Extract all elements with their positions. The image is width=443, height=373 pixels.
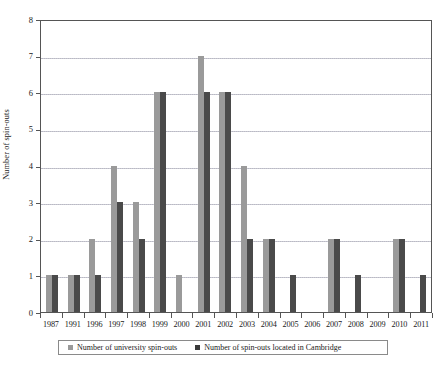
- x-axis-ticks: [40, 313, 432, 319]
- bar-2004-series-2: [269, 239, 275, 312]
- bar-group-2011: [409, 21, 431, 312]
- x-axis-label-1999: 1999: [149, 320, 171, 330]
- bar-group-2006: [301, 21, 323, 312]
- bar-2005-series-2: [290, 275, 296, 312]
- x-axis-label-1998: 1998: [127, 320, 149, 330]
- x-axis-label-2011: 2011: [410, 320, 432, 330]
- bar-group-1991: [63, 21, 85, 312]
- x-axis-label-2002: 2002: [214, 320, 236, 330]
- bar-1991-series-2: [74, 275, 80, 312]
- x-tick-mark-8: [214, 313, 215, 318]
- bar-2008-series-2: [355, 275, 361, 312]
- plot-area: [40, 20, 432, 313]
- x-axis-label-1997: 1997: [105, 320, 127, 330]
- legend-label-series-2: Number of spin-outs located in Cambridge: [204, 343, 341, 352]
- bar-group-2000: [171, 21, 193, 312]
- bar-group-1998: [128, 21, 150, 312]
- bar-2003-series-2: [247, 239, 253, 312]
- bar-group-2002: [214, 21, 236, 312]
- y-tick-label-6: 6: [9, 89, 33, 98]
- x-axis-label-2006: 2006: [301, 320, 323, 330]
- x-tick-mark-14: [345, 313, 346, 318]
- y-tick-label-2: 2: [9, 235, 33, 244]
- y-tick-label-5: 5: [9, 125, 33, 134]
- x-axis-label-2004: 2004: [258, 320, 280, 330]
- x-axis-label-1991: 1991: [62, 320, 84, 330]
- y-tick-label-8: 8: [9, 16, 33, 25]
- x-tick-mark-2: [84, 313, 85, 318]
- bar-group-1997: [106, 21, 128, 312]
- bar-2002-series-2: [225, 92, 231, 312]
- x-tick-mark-17: [410, 313, 411, 318]
- y-tick-label-0: 0: [9, 309, 33, 318]
- y-tick-label-4: 4: [9, 162, 33, 171]
- bar-series-container: [41, 21, 431, 312]
- bar-group-2009: [366, 21, 388, 312]
- bar-group-2003: [236, 21, 258, 312]
- bar-group-1999: [149, 21, 171, 312]
- y-tick-label-7: 7: [9, 52, 33, 61]
- x-tick-mark-9: [236, 313, 237, 318]
- x-axis-label-1987: 1987: [40, 320, 62, 330]
- x-axis-label-2001: 2001: [192, 320, 214, 330]
- x-tick-mark-3: [105, 313, 106, 318]
- bar-2001-series-2: [204, 92, 210, 312]
- chart-legend: Number of university spin-outs Number of…: [58, 340, 388, 355]
- bar-1987-series-2: [52, 275, 58, 312]
- x-tick-mark-12: [301, 313, 302, 318]
- x-axis-label-2009: 2009: [367, 320, 389, 330]
- x-tick-mark-6: [171, 313, 172, 318]
- legend-item-university-spinouts: Number of university spin-outs: [68, 343, 177, 352]
- x-tick-mark-10: [258, 313, 259, 318]
- bar-2000-series-1: [176, 275, 182, 312]
- bar-1997-series-2: [117, 202, 123, 312]
- x-tick-mark-11: [280, 313, 281, 318]
- x-axis-label-2000: 2000: [171, 320, 193, 330]
- bar-1996-series-2: [95, 275, 101, 312]
- x-tick-mark-7: [192, 313, 193, 318]
- x-tick-mark-1: [62, 313, 63, 318]
- bar-group-2005: [279, 21, 301, 312]
- bar-2007-series-2: [334, 239, 340, 312]
- x-tick-mark-13: [323, 313, 324, 318]
- x-axis-label-2005: 2005: [280, 320, 302, 330]
- y-tick-label-3: 3: [9, 199, 33, 208]
- bar-group-2008: [344, 21, 366, 312]
- bar-2011-series-2: [420, 275, 426, 312]
- x-axis-label-1996: 1996: [84, 320, 106, 330]
- series-2-swatch: [195, 345, 200, 350]
- figure-container: 012345678 Number of spin-outs 1987199119…: [0, 0, 443, 373]
- series-1-swatch: [68, 345, 73, 350]
- x-tick-mark-18: [432, 313, 433, 318]
- x-tick-mark-16: [388, 313, 389, 318]
- bar-group-2004: [258, 21, 280, 312]
- x-tick-mark-4: [127, 313, 128, 318]
- legend-item-cambridge-spinouts: Number of spin-outs located in Cambridge: [195, 343, 341, 352]
- x-tick-mark-0: [40, 313, 41, 318]
- bar-1999-series-2: [160, 92, 166, 312]
- bar-group-2001: [193, 21, 215, 312]
- x-axis-label-2008: 2008: [345, 320, 367, 330]
- bar-group-1996: [84, 21, 106, 312]
- bar-group-2007: [323, 21, 345, 312]
- x-axis-label-2010: 2010: [389, 320, 411, 330]
- bar-group-2010: [388, 21, 410, 312]
- bar-2010-series-2: [399, 239, 405, 312]
- bar-group-1987: [41, 21, 63, 312]
- x-axis-label-2007: 2007: [323, 320, 345, 330]
- bar-1998-series-2: [139, 239, 145, 312]
- y-tick-label-1: 1: [9, 272, 33, 281]
- legend-label-series-1: Number of university spin-outs: [77, 343, 177, 352]
- x-axis-label-2003: 2003: [236, 320, 258, 330]
- x-axis-labels: 1987199119961997199819992000200120022003…: [40, 320, 432, 330]
- x-tick-mark-5: [149, 313, 150, 318]
- x-tick-mark-15: [367, 313, 368, 318]
